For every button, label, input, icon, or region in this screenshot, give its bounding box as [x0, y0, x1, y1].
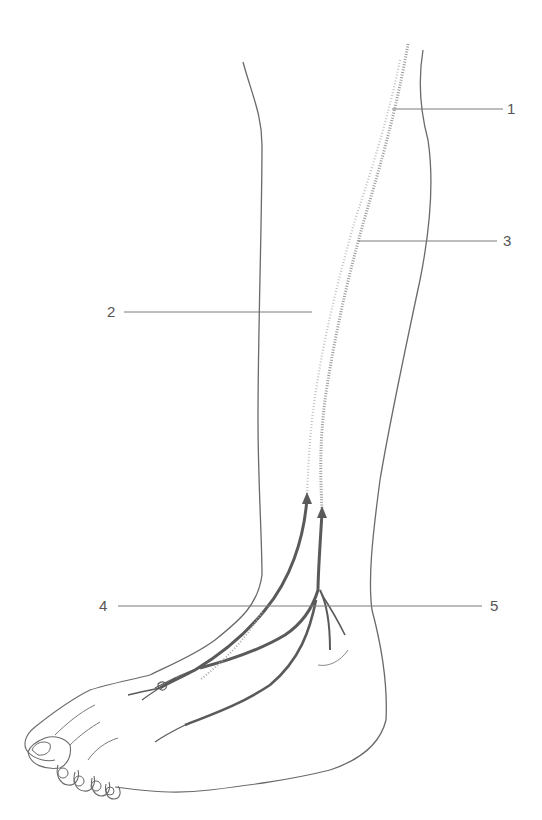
toe-crease-3: [88, 738, 118, 760]
toe-4-nail: [91, 781, 101, 791]
label-5: 5: [490, 598, 498, 613]
toe-crease-2: [70, 722, 100, 745]
label-4: 4: [99, 598, 107, 613]
toe-2-nail: [58, 768, 68, 778]
big-toe: [28, 737, 71, 769]
nerve-branch-ankle-b: [322, 595, 345, 635]
nerve-twig-4: [155, 725, 185, 742]
nerve-arrow-medial: [302, 492, 312, 504]
lateral-malleolus: [318, 650, 348, 665]
nerve-dotted-anterior: [321, 44, 408, 510]
toe-5: [105, 784, 120, 799]
label-3: 3: [503, 233, 511, 248]
leg-foot-nerve-diagram: [0, 0, 542, 820]
nerve-twig-2: [142, 678, 175, 700]
foot-outline: [25, 675, 150, 761]
foot-sole-outline: [115, 770, 330, 792]
leg-outline-posterior: [150, 62, 262, 675]
label-2: 2: [107, 304, 115, 319]
label-1: 1: [507, 101, 515, 116]
nerve-twig-1: [128, 688, 160, 695]
toe-3-nail: [74, 776, 84, 786]
nerve-arrow-lateral: [317, 506, 327, 518]
toe-crease-1: [55, 705, 95, 735]
leg-outline-anterior: [330, 50, 431, 770]
